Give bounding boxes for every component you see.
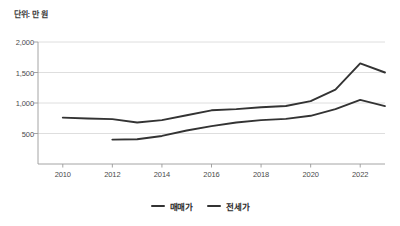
y-tick-label-1500: 1,500 (0, 68, 34, 77)
legend-label-jeonse: 전세가 (226, 200, 249, 212)
x-tick-label-2022: 2022 (340, 170, 380, 179)
price-trend-chart: 단위: 만 원 5001,0001,5002,00020102012201420… (0, 0, 400, 226)
x-tick-label-2014: 2014 (142, 170, 182, 179)
legend-line-swatch-sale (151, 205, 165, 207)
x-tick-label-2018: 2018 (241, 170, 281, 179)
legend-item-jeonse[interactable]: 전세가 (207, 200, 249, 212)
chart-canvas (0, 0, 400, 226)
y-tick-label-2000: 2,000 (0, 38, 34, 47)
legend-line-swatch-jeonse (207, 205, 221, 207)
plot-area: 5001,0001,5002,0002010201220142016201820… (0, 0, 400, 226)
legend-item-sale[interactable]: 매매가 (151, 200, 193, 212)
x-tick-label-2012: 2012 (92, 170, 132, 179)
chart-legend: 매매가 전세가 (0, 200, 400, 212)
x-tick-label-2020: 2020 (291, 170, 331, 179)
legend-label-sale: 매매가 (170, 200, 193, 212)
y-tick-label-500: 500 (0, 129, 34, 138)
x-tick-label-2010: 2010 (43, 170, 83, 179)
y-tick-label-1000: 1,000 (0, 99, 34, 108)
x-tick-label-2016: 2016 (192, 170, 232, 179)
